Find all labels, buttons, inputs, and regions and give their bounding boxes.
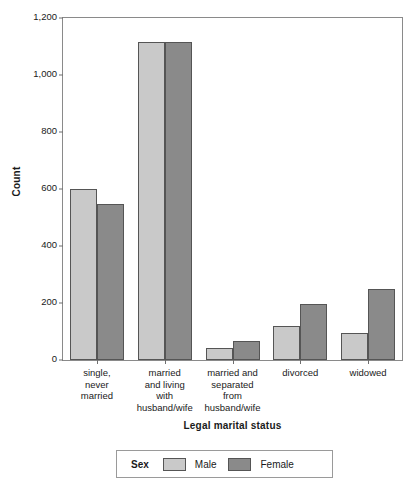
x-axis-category-label-line: separated: [195, 379, 271, 391]
bar-female-0: [97, 204, 124, 360]
x-axis-category-labels: single,nevermarriedmarriedand livingwith…: [62, 367, 403, 417]
x-axis-category-label: divorced: [262, 367, 338, 379]
x-axis-category-label-line: divorced: [262, 367, 338, 379]
y-axis-title: Count: [11, 152, 22, 212]
legend-entry-female[interactable]: Female: [228, 458, 293, 471]
bar-female-2: [233, 341, 260, 360]
x-axis-category-label-line: married: [127, 367, 203, 379]
x-axis-category-label: marriedand livingwithhusband/wife: [127, 367, 203, 413]
y-axis-tick-label: 1,200: [33, 11, 57, 22]
y-axis-tick-label: 800: [41, 125, 57, 136]
legend: Sex MaleFemale: [116, 450, 333, 478]
y-axis-tick-label: 0: [52, 353, 57, 364]
x-axis-tick-mark: [97, 360, 98, 364]
legend-swatch-female: [228, 458, 251, 471]
plot-inner: 02004006008001,0001,200: [63, 18, 402, 360]
y-axis-tick-label: 600: [41, 182, 57, 193]
x-axis-category-label: widowed: [330, 367, 406, 379]
bar-female-1: [165, 42, 192, 360]
x-axis-category-label-line: married: [59, 390, 135, 402]
y-axis-tick-label: 200: [41, 296, 57, 307]
bar-male-2: [206, 348, 233, 360]
x-axis-tick-mark: [300, 360, 301, 364]
legend-label-female: Female: [260, 459, 293, 470]
y-axis-tick-label: 400: [41, 239, 57, 250]
bar-male-1: [138, 42, 165, 360]
x-axis-tick-mark: [233, 360, 234, 364]
x-axis-title: Legal marital status: [62, 420, 403, 431]
x-axis-category-label-line: husband/wife: [127, 402, 203, 414]
x-axis-category-label: single,nevermarried: [59, 367, 135, 402]
x-axis-category-label-line: with: [127, 390, 203, 402]
plot-area: 02004006008001,0001,200: [62, 17, 403, 361]
x-axis-category-label-line: married and: [195, 367, 271, 379]
legend-swatch-male: [163, 458, 186, 471]
bar-male-0: [70, 189, 97, 360]
legend-label-male: Male: [195, 459, 217, 470]
bar-chart-figure: Count 02004006008001,0001,200 single,nev…: [0, 0, 420, 493]
x-axis-category-label-line: and living: [127, 379, 203, 391]
x-axis-category-label-line: never: [59, 379, 135, 391]
x-axis-category-label-line: single,: [59, 367, 135, 379]
y-axis-tick-mark: [59, 246, 63, 247]
x-axis-tick-mark: [165, 360, 166, 364]
y-axis-tick-mark: [59, 75, 63, 76]
bar-male-3: [273, 326, 300, 360]
bar-female-3: [300, 304, 327, 360]
y-axis-tick-mark: [59, 189, 63, 190]
y-axis-tick-label: 1,000: [33, 68, 57, 79]
x-axis-category-label-line: widowed: [330, 367, 406, 379]
legend-entry-male[interactable]: Male: [163, 458, 217, 471]
y-axis-tick-mark: [59, 18, 63, 19]
x-axis-category-label-line: from: [195, 390, 271, 402]
y-axis-tick-mark: [59, 132, 63, 133]
x-axis-category-label-line: husband/wife: [195, 402, 271, 414]
x-axis-tick-mark: [368, 360, 369, 364]
y-axis-tick-mark: [59, 360, 63, 361]
x-axis-category-label: married andseparatedfromhusband/wife: [195, 367, 271, 413]
bar-male-4: [341, 333, 368, 360]
bar-female-4: [368, 289, 395, 360]
y-axis-tick-mark: [59, 303, 63, 304]
legend-title: Sex: [131, 459, 149, 470]
